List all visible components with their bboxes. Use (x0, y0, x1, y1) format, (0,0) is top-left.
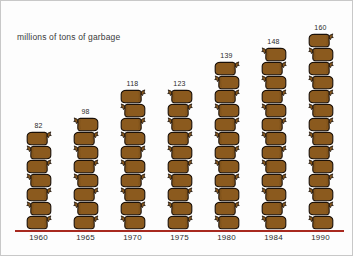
garbage-bag-icon (214, 173, 240, 188)
value-label: 82 (34, 121, 42, 130)
value-label: 160 (314, 23, 326, 32)
x-axis-labels: 1960196519701975198019841990 (15, 233, 344, 242)
garbage-bag-icon (167, 173, 193, 188)
garbage-bag-icon (214, 117, 240, 132)
value-label: 118 (127, 79, 139, 88)
garbage-bag-icon (26, 187, 52, 202)
pictograph-chart: millions of tons of garbage 829811812313… (0, 0, 353, 256)
garbage-bag-icon (73, 173, 99, 188)
garbage-bag-icon (308, 159, 334, 174)
garbage-bag-icon (214, 215, 240, 230)
value-label: 123 (173, 79, 185, 88)
garbage-bag-icon (214, 75, 240, 90)
garbage-bag-icon (261, 215, 287, 230)
garbage-bag-icon (167, 215, 193, 230)
garbage-bag-icon (73, 145, 99, 160)
garbage-bag-icon (167, 159, 193, 174)
garbage-bag-icon (73, 187, 99, 202)
value-label: 139 (220, 51, 232, 60)
garbage-bag-icon (120, 103, 146, 118)
x-axis-label-1965: 1965 (62, 233, 109, 242)
garbage-bag-icon (214, 61, 240, 76)
garbage-bag-icon (214, 145, 240, 160)
garbage-bag-icon (261, 159, 287, 174)
year-column-1970: 118 (109, 15, 156, 229)
garbage-bag-icon (120, 187, 146, 202)
garbage-bag-icon (26, 159, 52, 174)
bag-stack (308, 33, 334, 229)
value-label: 148 (267, 37, 279, 46)
garbage-bag-icon (120, 201, 146, 216)
plot-area: 8298118123139148160 (15, 15, 344, 229)
garbage-bag-icon (308, 215, 334, 230)
garbage-bag-icon (214, 201, 240, 216)
x-axis-label-1990: 1990 (297, 233, 344, 242)
garbage-bag-icon (308, 33, 334, 48)
garbage-bag-icon (167, 145, 193, 160)
bag-stack (26, 131, 52, 229)
garbage-bag-icon (308, 75, 334, 90)
garbage-bag-icon (261, 173, 287, 188)
garbage-bag-icon (261, 47, 287, 62)
year-column-1975: 123 (156, 15, 203, 229)
garbage-bag-icon (308, 173, 334, 188)
garbage-bag-icon (120, 159, 146, 174)
garbage-bag-icon (261, 103, 287, 118)
garbage-bag-icon (73, 117, 99, 132)
garbage-bag-icon (167, 89, 193, 104)
year-column-1965: 98 (62, 15, 109, 229)
garbage-bag-icon (26, 173, 52, 188)
garbage-bag-icon (308, 117, 334, 132)
garbage-bag-icon (308, 131, 334, 146)
garbage-bag-icon (214, 131, 240, 146)
garbage-bag-icon (261, 117, 287, 132)
bag-stack (120, 89, 146, 229)
garbage-bag-icon (167, 201, 193, 216)
garbage-bag-icon (120, 89, 146, 104)
garbage-bag-icon (73, 201, 99, 216)
garbage-bag-icon (308, 103, 334, 118)
garbage-bag-icon (261, 201, 287, 216)
bag-stack (73, 117, 99, 229)
garbage-bag-icon (308, 201, 334, 216)
garbage-bag-icon (261, 89, 287, 104)
garbage-bag-icon (26, 131, 52, 146)
garbage-bag-icon (261, 131, 287, 146)
garbage-bag-icon (308, 187, 334, 202)
garbage-bag-icon (26, 215, 52, 230)
bag-stack (214, 61, 240, 229)
x-axis-label-1970: 1970 (109, 233, 156, 242)
garbage-bag-icon (214, 159, 240, 174)
axis-baseline (15, 230, 344, 232)
garbage-bag-icon (308, 47, 334, 62)
garbage-bag-icon (120, 145, 146, 160)
x-axis-label-1984: 1984 (250, 233, 297, 242)
garbage-bag-icon (261, 75, 287, 90)
garbage-bag-icon (167, 117, 193, 132)
garbage-bag-icon (26, 201, 52, 216)
garbage-bag-icon (120, 131, 146, 146)
garbage-bag-icon (167, 187, 193, 202)
garbage-bag-icon (261, 61, 287, 76)
garbage-bag-icon (120, 215, 146, 230)
year-column-1980: 139 (203, 15, 250, 229)
garbage-bag-icon (308, 61, 334, 76)
bag-stack (167, 89, 193, 229)
garbage-bag-icon (73, 215, 99, 230)
garbage-bag-icon (308, 89, 334, 104)
year-column-1984: 148 (250, 15, 297, 229)
x-axis-label-1980: 1980 (203, 233, 250, 242)
garbage-bag-icon (214, 89, 240, 104)
garbage-bag-icon (214, 187, 240, 202)
year-column-1990: 160 (297, 15, 344, 229)
year-column-1960: 82 (15, 15, 62, 229)
garbage-bag-icon (261, 145, 287, 160)
value-label: 98 (81, 107, 89, 116)
garbage-bag-icon (167, 131, 193, 146)
garbage-bag-icon (26, 145, 52, 160)
garbage-bag-icon (73, 131, 99, 146)
garbage-bag-icon (120, 173, 146, 188)
garbage-bag-icon (73, 159, 99, 174)
bag-stack (261, 47, 287, 229)
garbage-bag-icon (167, 103, 193, 118)
